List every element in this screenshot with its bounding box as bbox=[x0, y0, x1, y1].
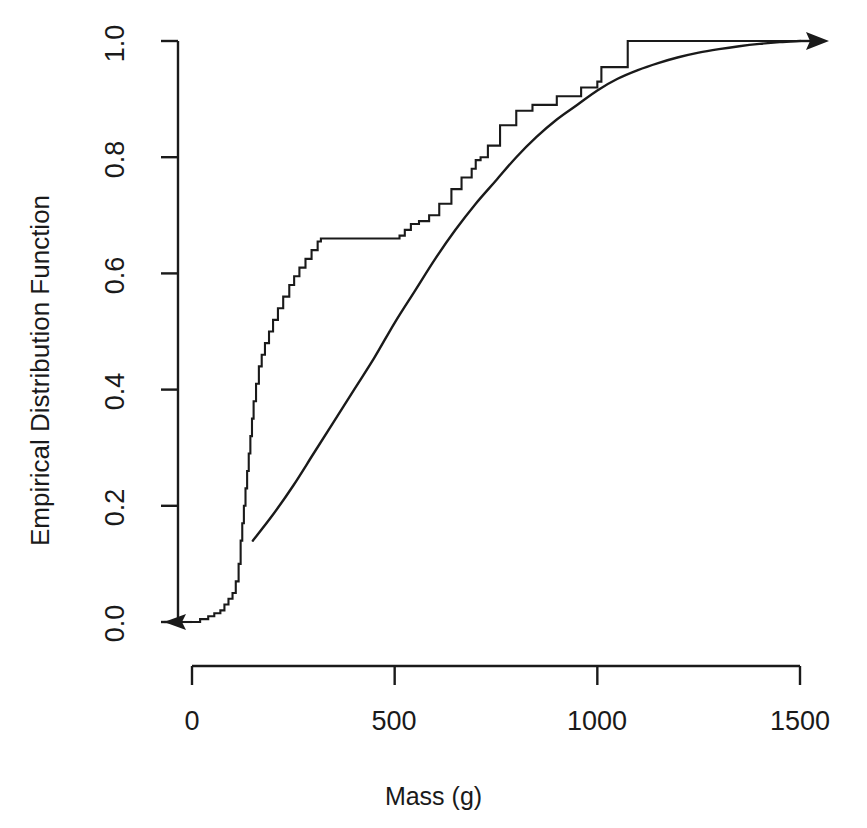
y-axis-group bbox=[161, 41, 178, 622]
edf-plot-figure: E.D.F. PLOT Empirical Distribution Funct… bbox=[0, 0, 867, 828]
x-axis-ticks bbox=[192, 666, 800, 685]
plot-canvas bbox=[0, 0, 867, 828]
empirical-step-curve bbox=[192, 41, 800, 622]
fitted-smooth-curve bbox=[253, 41, 800, 541]
x-axis-group bbox=[192, 666, 800, 685]
y-axis-ticks bbox=[161, 41, 178, 622]
